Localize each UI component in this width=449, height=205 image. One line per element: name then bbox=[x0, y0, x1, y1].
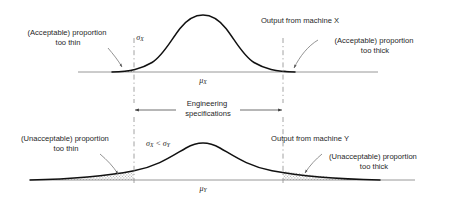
annotation-left-x: (Acceptable) proportion too thin bbox=[27, 28, 108, 47]
annotation-right-x-line2: too thick bbox=[361, 46, 389, 55]
engineering-specifications-label: Engineering specifications bbox=[185, 99, 231, 118]
annotation-right-y: (Unacceptable) proportion too thick bbox=[329, 152, 419, 171]
sigma-comp-left-sub: X bbox=[149, 142, 154, 148]
leader-left-y bbox=[100, 154, 118, 174]
annotation-left-x-line1: (Acceptable) proportion bbox=[27, 28, 106, 37]
panel-machine-x: σX μX Output from machine X (Acceptable)… bbox=[27, 15, 415, 103]
engineering-specifications-group: Engineering specifications bbox=[135, 99, 282, 118]
spec-label-line2: specifications bbox=[185, 109, 231, 118]
mu-x-subscript: X bbox=[202, 79, 207, 85]
leader-left-x bbox=[108, 48, 122, 67]
mu-y-subscript: Y bbox=[203, 187, 207, 193]
tail-left-unacceptable-y bbox=[30, 171, 134, 180]
mu-x-label: μX bbox=[198, 76, 207, 85]
sigma-x-label: σX bbox=[136, 33, 144, 42]
leader-right-y bbox=[305, 154, 322, 173]
annotation-left-y-line1: (Unacceptable) proportion bbox=[21, 134, 109, 143]
leader-right-x bbox=[294, 40, 318, 68]
sigma-comp-right-sub: Y bbox=[167, 142, 171, 148]
annotation-left-y-line2: too thin bbox=[54, 144, 79, 153]
annotation-left-x-line2: too thin bbox=[56, 38, 81, 47]
annotation-right-x: (Acceptable) proportion too thick bbox=[334, 36, 415, 55]
annotation-right-y-line1: (Unacceptable) proportion bbox=[329, 152, 417, 161]
panel-machine-y: σX<σY μY Output from machine Y (Unaccept… bbox=[21, 117, 419, 193]
spec-label-line1: Engineering bbox=[187, 99, 228, 108]
mu-y-label: μY bbox=[198, 184, 207, 193]
annotation-right-y-line2: too thick bbox=[360, 162, 388, 171]
sigma-comparison-label: σX<σY bbox=[146, 139, 171, 148]
process-capability-figure: σX μX Output from machine X (Acceptable)… bbox=[0, 0, 449, 205]
sigma-x-subscript: X bbox=[139, 36, 144, 42]
annotation-right-x-line1: (Acceptable) proportion bbox=[334, 36, 413, 45]
sigma-comp-operator: < bbox=[155, 139, 160, 148]
output-machine-x-label: Output from machine X bbox=[261, 16, 339, 25]
annotation-left-y: (Unacceptable) proportion too thin bbox=[21, 134, 111, 153]
curve-machine-y bbox=[30, 143, 380, 180]
output-machine-y-label: Output from machine Y bbox=[271, 134, 349, 143]
